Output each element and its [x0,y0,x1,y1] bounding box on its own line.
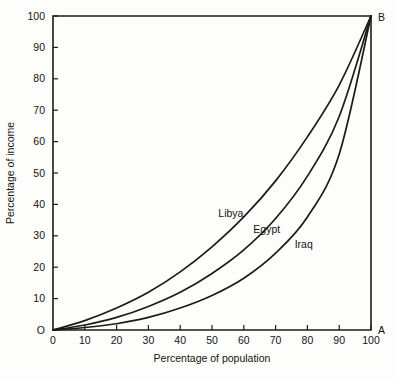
x-axis-tick-label: 60 [238,334,250,346]
x-axis-tick-label: 20 [111,334,123,346]
x-axis-tick-label: 0 [50,334,56,346]
y-axis-tick-label: 100 [27,10,45,22]
corner-label-a: A [378,324,385,336]
y-axis-tick-label: 40 [33,198,45,210]
y-axis-tick-label: 10 [33,292,45,304]
corner-label-b: B [378,11,385,23]
curve-egypt [53,16,371,330]
curve-iraq [53,16,371,330]
y-axis-title: Percentage of income [4,122,16,224]
plot-frame [53,16,371,330]
x-axis-tick-label: 30 [143,334,155,346]
x-axis-title: Percentage of population [154,352,271,364]
x-axis-tick-label: 50 [206,334,218,346]
lorenz-curve-figure: O102030405060708090100010203040506070809… [0,0,397,380]
x-axis-tick-label: 40 [174,334,186,346]
y-axis-tick-label: 80 [33,72,45,84]
x-axis-tick-label: 10 [79,334,91,346]
curve-label-egypt: Egypt [253,223,280,235]
y-axis-tick-label: O [37,324,45,336]
y-axis-tick-label: 30 [33,229,45,241]
curve-label-iraq: Iraq [295,238,313,250]
page-caption-ghost [18,370,348,379]
curve-label-libya: Libya [218,207,243,219]
x-axis-tick-label: 90 [333,334,345,346]
chart-canvas: O102030405060708090100010203040506070809… [0,0,397,380]
x-axis-tick-label: 80 [302,334,314,346]
y-axis-tick-label: 70 [33,104,45,116]
x-axis-tick-label: 70 [270,334,282,346]
curve-libya [53,16,371,330]
y-axis-tick-label: 60 [33,135,45,147]
y-axis-tick-label: 20 [33,261,45,273]
y-axis-tick-label: 90 [33,41,45,53]
y-axis-tick-label: 50 [33,167,45,179]
